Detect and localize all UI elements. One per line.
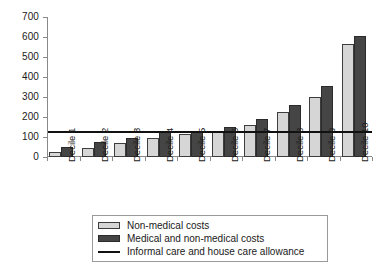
x-axis-label: Decile 1 <box>67 128 77 162</box>
x-axis-label: Decile 2 <box>100 128 110 162</box>
bar-non-medical <box>147 138 159 157</box>
bar-non-medical <box>342 44 354 157</box>
y-axis-tick-label: 400 <box>0 72 39 82</box>
chart-legend: Non-medical costs Medical and non-medica… <box>92 215 328 262</box>
bar-non-medical <box>179 134 191 157</box>
x-axis-tick <box>372 157 373 161</box>
reference-line <box>48 131 372 133</box>
x-axis-tick <box>340 157 341 161</box>
y-axis-tick-label: 0 <box>0 152 39 162</box>
legend-swatch-reference-line-icon <box>98 251 120 253</box>
bar-non-medical <box>49 152 61 157</box>
x-axis-tick <box>275 157 276 161</box>
y-axis-tick-label: 100 <box>0 132 39 142</box>
y-axis-tick-label: 500 <box>0 52 39 62</box>
legend-item-medical-and-non-medical: Medical and non-medical costs <box>98 232 322 245</box>
y-axis-tick-label: 700 <box>0 12 39 22</box>
bar-non-medical <box>114 143 126 157</box>
x-axis-label: Decile 10 <box>360 122 370 162</box>
x-axis-tick <box>80 157 81 161</box>
y-axis-tick-label: 600 <box>0 32 39 42</box>
x-axis-label: Decile 3 <box>132 128 142 162</box>
legend-item-non-medical: Non-medical costs <box>98 219 322 232</box>
x-axis-label: Decile 6 <box>230 128 240 162</box>
x-axis-tick <box>177 157 178 161</box>
x-axis-label: Decile 8 <box>295 128 305 162</box>
bar-non-medical <box>212 132 224 157</box>
bar-non-medical <box>82 148 94 157</box>
x-axis-tick <box>242 157 243 161</box>
legend-label-informal-care: Informal care and house care allowance <box>127 246 304 257</box>
bar-non-medical <box>277 112 289 157</box>
x-axis-label: Decile 4 <box>165 128 175 162</box>
x-axis-label: Decile 7 <box>262 128 272 162</box>
legend-item-informal-care: Informal care and house care allowance <box>98 245 322 258</box>
x-axis-label: Decile 9 <box>327 128 337 162</box>
legend-label-medical-and-non-medical: Medical and non-medical costs <box>127 233 264 244</box>
y-axis-tick-label: 300 <box>0 92 39 102</box>
x-axis-tick <box>145 157 146 161</box>
bar-non-medical <box>309 97 321 157</box>
x-axis-tick <box>210 157 211 161</box>
x-axis-tick <box>112 157 113 161</box>
legend-label-non-medical: Non-medical costs <box>127 220 209 231</box>
legend-swatch-medical-icon <box>98 235 120 242</box>
x-axis-tick <box>47 157 48 161</box>
legend-swatch-non-medical-icon <box>98 222 120 229</box>
plot-area <box>47 17 372 157</box>
x-axis-label: Decile 5 <box>197 128 207 162</box>
x-axis-tick <box>307 157 308 161</box>
chart-figure: 0100200300400500600700 Decile 1Decile 2D… <box>0 0 387 276</box>
bar-non-medical <box>244 125 256 157</box>
y-axis-tick-label: 200 <box>0 112 39 122</box>
